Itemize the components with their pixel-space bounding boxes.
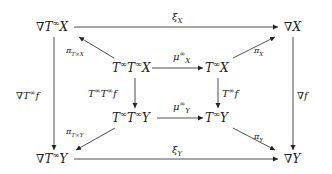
label-pi-tinf-x: πT∞X [66,47,84,55]
label-mu-y: μ∞Y [173,102,190,112]
label-tinf-f: T∞f [222,89,238,99]
commutative-diagram: ∇T∞X ∇X T∞T∞X T∞X T∞T∞Y T∞Y ∇T∞Y ∇Y ξX ξ… [0,0,332,174]
node-tinf-tinf-x: T∞T∞X [112,62,151,74]
label-xi-x: ξX [172,12,183,22]
node-nabla-tinf-x: ∇T∞X [36,21,68,33]
label-pi-x: πX [254,47,263,55]
node-nabla-y: ∇Y [284,153,300,165]
label-nabla-tinf-f: ∇T∞f [16,91,39,101]
label-xi-y: ξY [172,145,182,155]
label-nabla-f: ∇f [297,91,308,101]
node-nabla-tinf-y: ∇T∞Y [36,153,67,165]
node-nabla-x: ∇X [284,21,301,33]
arrow-pi-tinf-x [79,37,114,58]
label-tinf-tinf-f: T∞T∞f [88,89,117,99]
label-pi-tinf-y: πT∞Y [66,128,83,136]
label-mu-x: μ∞X [173,52,190,62]
node-tinf-y: T∞Y [205,112,228,124]
node-tinf-tinf-y: T∞T∞Y [112,112,150,124]
label-pi-y: πY [254,133,263,141]
node-tinf-x: T∞X [205,62,229,74]
